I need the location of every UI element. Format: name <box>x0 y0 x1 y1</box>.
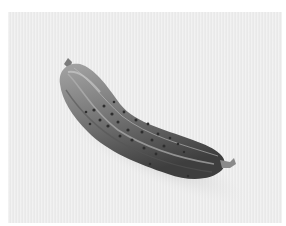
cucumber-photo: cucumber <box>8 12 282 223</box>
cucumber-illustration <box>8 12 282 223</box>
